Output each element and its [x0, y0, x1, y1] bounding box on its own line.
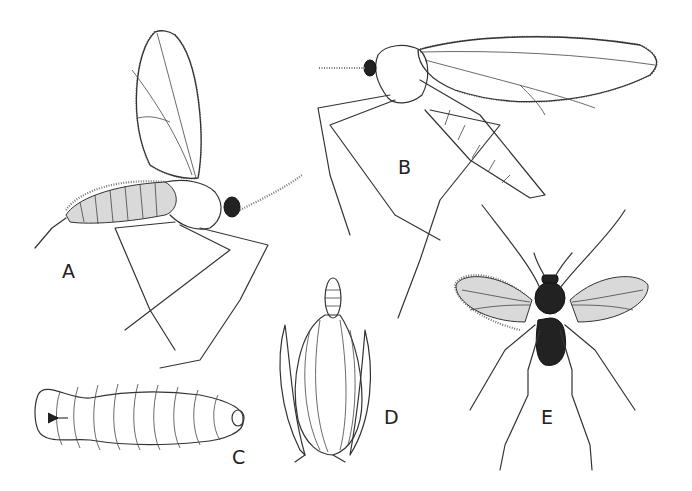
figure-c-larva	[35, 384, 244, 450]
figure-d-floret-with-pupa	[280, 278, 370, 462]
figure-b-midge-lateral	[318, 37, 657, 318]
figure-label-a: A	[62, 262, 75, 281]
figure-label-e: E	[541, 408, 553, 427]
insect-illustration-plate	[0, 0, 692, 491]
figure-label-c: C	[232, 448, 245, 467]
figure-label-d: D	[384, 408, 399, 427]
plate-drawing	[0, 0, 692, 491]
figure-a-midge-lateral	[35, 31, 302, 368]
figure-label-b: B	[398, 158, 411, 177]
figure-e-midge-dorsal	[455, 205, 648, 470]
